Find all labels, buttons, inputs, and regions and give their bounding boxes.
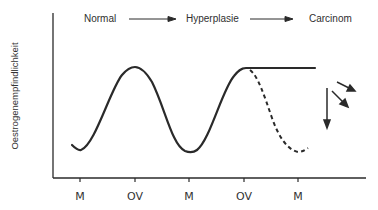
arrow-down-icon <box>324 88 330 128</box>
stage-label-carcinom: Carcinom <box>309 13 352 24</box>
arrow-right-down-icon <box>337 82 355 91</box>
x-tick-label: OV <box>236 190 252 203</box>
x-tick-label: OV <box>127 190 143 203</box>
cyclic-sensitivity-curve <box>72 67 315 152</box>
x-tick-label: M <box>75 190 85 203</box>
x-tick-label: M <box>293 190 303 203</box>
normal-decline-dashed-curve <box>250 70 308 152</box>
diagram-canvas <box>0 0 378 210</box>
arrow-down-right-icon <box>332 91 348 107</box>
y-axis-label: Oestrogenempfindlichkeit <box>9 42 20 149</box>
x-tick-label: M <box>184 190 194 203</box>
outcome-arrows <box>324 82 355 128</box>
stage-label-normal: Normal <box>84 13 116 24</box>
stage-label-hyperplasie: Hyperplasie <box>186 13 239 24</box>
